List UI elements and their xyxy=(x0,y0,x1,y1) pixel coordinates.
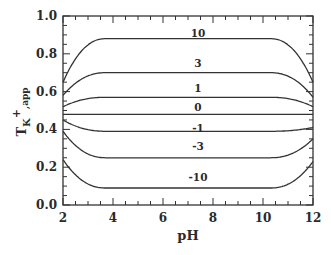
x-axis-title: pH xyxy=(177,228,198,243)
curve-label: 10 xyxy=(191,27,206,39)
y-tick-label: 0.2 xyxy=(36,160,57,174)
y-tick-label: 0.0 xyxy=(36,198,57,212)
y-tick-label: 0.8 xyxy=(36,47,57,61)
curve-3 xyxy=(63,73,313,98)
y-axis-title-sub2: ,app xyxy=(20,87,31,109)
y-tick-label: 1.0 xyxy=(36,9,57,23)
y-axis-title-sup: + xyxy=(10,109,23,118)
curve-label: -1 xyxy=(192,122,204,134)
y-tick-label: 0.4 xyxy=(36,122,57,136)
curve-labels: 10310-1-3-10 xyxy=(189,27,208,183)
x-tick-labels: 24681012 xyxy=(59,211,322,225)
ph-dependence-chart: 10310-1-3-10 24681012 0.00.20.40.60.81.0… xyxy=(0,0,331,255)
x-tick-label: 12 xyxy=(305,211,322,225)
x-tick-label: 4 xyxy=(109,211,117,225)
curve-label: -10 xyxy=(189,171,208,183)
y-tick-label: 0.6 xyxy=(36,85,57,99)
y-axis-title-main: T xyxy=(14,127,29,137)
x-tick-label: 10 xyxy=(255,211,272,225)
curve-label: 0 xyxy=(194,101,201,113)
curve-1 xyxy=(63,97,313,106)
curve--1 xyxy=(63,120,313,131)
y-axis-title: TK+,app xyxy=(10,87,32,136)
y-axis-title-sub: K xyxy=(21,118,32,127)
curve-label: 3 xyxy=(194,57,201,69)
svg-text:TK+,app: TK+,app xyxy=(10,87,32,136)
curves xyxy=(63,39,313,188)
x-tick-label: 6 xyxy=(159,211,167,225)
curve-10 xyxy=(63,39,313,82)
curve--3 xyxy=(63,131,313,158)
y-tick-labels: 0.00.20.40.60.81.0 xyxy=(36,9,57,212)
x-tick-label: 8 xyxy=(209,211,217,225)
curve-label: 1 xyxy=(194,82,201,94)
x-tick-label: 2 xyxy=(59,211,67,225)
curve-label: -3 xyxy=(192,140,204,152)
